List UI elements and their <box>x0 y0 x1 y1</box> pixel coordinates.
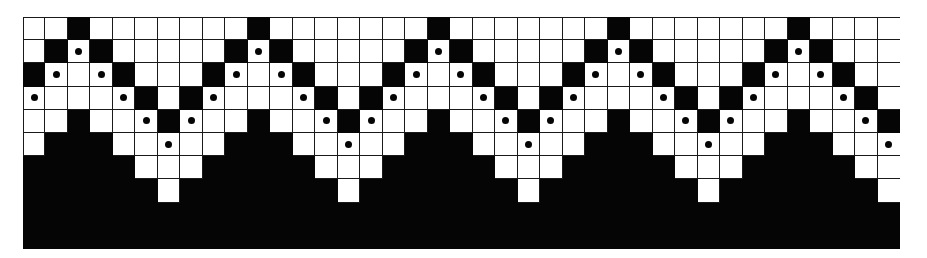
cell-dot <box>540 110 562 133</box>
cell-white <box>203 133 225 156</box>
cell-black <box>608 226 630 249</box>
cell-black <box>563 179 585 202</box>
cell-white <box>563 40 585 63</box>
cell-black <box>270 226 293 249</box>
cell-white <box>698 17 720 40</box>
cell-white <box>203 17 225 40</box>
cell-white <box>293 110 315 133</box>
cell-dot <box>608 40 630 63</box>
cell-black <box>630 226 653 249</box>
cell-white <box>765 110 788 133</box>
cell-white <box>743 133 765 156</box>
cell-white <box>338 179 360 202</box>
cell-black <box>248 133 270 156</box>
cell-white <box>248 63 270 86</box>
cell-white <box>878 179 900 202</box>
cell-black <box>788 110 810 133</box>
cell-black <box>23 226 45 249</box>
cell-black <box>585 179 607 202</box>
cell-white <box>653 17 675 40</box>
cell-white <box>338 40 360 63</box>
cell-black <box>405 133 427 156</box>
cell-black <box>563 203 585 226</box>
cell-black <box>360 203 382 226</box>
cell-white <box>698 179 720 202</box>
cell-black <box>743 203 765 226</box>
cell-dot <box>450 63 472 86</box>
cell-white <box>833 110 855 133</box>
cell-white <box>203 40 225 63</box>
cell-black <box>765 133 788 156</box>
cell-dot <box>315 110 337 133</box>
cell-white <box>225 17 247 40</box>
cell-black <box>473 226 495 249</box>
cell-black <box>180 203 202 226</box>
cell-black <box>293 156 315 179</box>
cell-white <box>225 87 247 110</box>
cell-black <box>495 226 517 249</box>
cell-black <box>743 156 765 179</box>
cell-black <box>68 110 90 133</box>
cell-black <box>135 203 158 226</box>
cell-white <box>608 63 630 86</box>
cell-black <box>203 203 225 226</box>
cell-white <box>518 87 541 110</box>
cell-dot <box>180 110 202 133</box>
cell-white <box>495 156 517 179</box>
cell-white <box>585 17 607 40</box>
cell-white <box>315 17 337 40</box>
cell-white <box>630 87 653 110</box>
cell-white <box>810 87 832 110</box>
cell-black <box>293 226 315 249</box>
cell-white <box>180 133 202 156</box>
cell-black <box>113 203 135 226</box>
cell-white <box>878 156 900 179</box>
cell-dot <box>698 133 720 156</box>
cell-black <box>248 203 270 226</box>
cell-white <box>45 17 67 40</box>
cell-black <box>360 179 382 202</box>
cell-white <box>855 63 877 86</box>
cell-black <box>450 203 472 226</box>
chart-canvas <box>0 0 927 258</box>
cell-black <box>405 226 427 249</box>
cell-white <box>338 17 360 40</box>
cell-black <box>248 110 270 133</box>
cell-white <box>158 63 180 86</box>
cell-black <box>788 226 810 249</box>
cell-white <box>45 87 67 110</box>
cell-black <box>405 203 427 226</box>
cell-dot <box>135 110 158 133</box>
cell-white <box>878 63 900 86</box>
cell-white <box>113 17 135 40</box>
cell-black <box>608 156 630 179</box>
cell-white <box>158 156 180 179</box>
cell-white <box>270 110 293 133</box>
cell-white <box>878 17 900 40</box>
cell-white <box>473 40 495 63</box>
cell-black <box>248 226 270 249</box>
cell-dot <box>23 87 45 110</box>
cell-black <box>315 203 337 226</box>
cell-white <box>653 133 675 156</box>
cell-white <box>180 40 202 63</box>
cell-white <box>90 87 112 110</box>
cell-black <box>450 179 472 202</box>
cell-black <box>450 40 472 63</box>
cell-white <box>180 156 202 179</box>
cell-black <box>810 133 832 156</box>
cell-white <box>743 110 765 133</box>
cell-white <box>360 17 382 40</box>
cell-dot <box>338 133 360 156</box>
cell-black <box>68 203 90 226</box>
cell-black <box>90 133 112 156</box>
cell-white <box>855 40 877 63</box>
cell-black <box>270 203 293 226</box>
cell-black <box>428 156 450 179</box>
cell-black <box>765 40 788 63</box>
cell-black <box>765 156 788 179</box>
cell-white <box>135 133 158 156</box>
cell-black <box>855 203 877 226</box>
cell-white <box>270 17 293 40</box>
cell-white <box>473 110 495 133</box>
